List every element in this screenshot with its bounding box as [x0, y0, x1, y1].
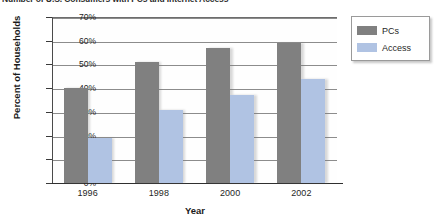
y-tick-mark [46, 159, 52, 160]
bar-pcs-1998[interactable] [135, 62, 159, 183]
y-tick-label: 70% [56, 12, 96, 22]
y-tick-mark [46, 64, 52, 65]
legend-item-pcs[interactable]: PCs [357, 22, 429, 39]
bar-pcs-1996[interactable] [64, 88, 88, 183]
x-axis-title: Year [0, 205, 390, 216]
y-tick-mark [46, 41, 52, 42]
legend-swatch-access-icon [357, 43, 377, 52]
legend-item-access[interactable]: Access [357, 39, 429, 56]
x-tick-label-2002: 2002 [271, 188, 331, 198]
bar-access-1996[interactable] [88, 138, 112, 183]
bar-access-2000[interactable] [230, 95, 254, 183]
x-tick-label-1996: 1996 [58, 188, 118, 198]
bar-access-1998[interactable] [159, 110, 183, 184]
legend-swatch-pcs-icon [357, 26, 377, 35]
bar-chart-figure: Number of U.S. Consumers with PCs and In… [0, 0, 435, 222]
y-tick-mark [46, 112, 52, 113]
bar-pcs-2002[interactable] [277, 43, 301, 183]
y-tick-mark [46, 17, 52, 18]
y-tick-mark [46, 183, 52, 184]
chart-legend: PCs Access [351, 16, 430, 61]
y-tick-label: 60% [56, 36, 96, 46]
y-tick-label: 50% [56, 59, 96, 69]
chart-title: Number of U.S. Consumers with PCs and In… [2, 0, 332, 4]
legend-label-access: Access [382, 43, 411, 53]
x-tick-label-2000: 2000 [200, 188, 260, 198]
bar-access-2002[interactable] [301, 79, 325, 183]
bar-pcs-2000[interactable] [206, 48, 230, 183]
x-tick-label-1998: 1998 [129, 188, 189, 198]
y-axis-title: Percent of Households [11, 8, 22, 128]
y-tick-mark [46, 88, 52, 89]
y-tick-mark [46, 136, 52, 137]
legend-label-pcs: PCs [382, 26, 399, 36]
